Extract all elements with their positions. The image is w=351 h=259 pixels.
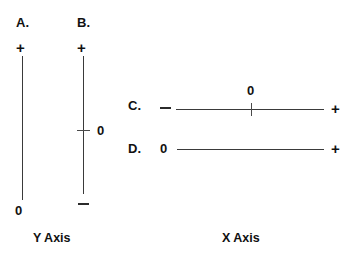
y-axis-caption: Y Axis: [33, 232, 71, 245]
panel-d-letter: D.: [128, 142, 141, 155]
panel-c-letter: C.: [128, 99, 141, 112]
panel-b-plus-marker: +: [77, 40, 86, 55]
panel-c-axis-line: [176, 109, 324, 110]
panel-a-letter: A.: [16, 16, 29, 29]
panel-d-axis-line: [177, 149, 324, 150]
panel-c-zero-label: 0: [247, 84, 254, 97]
panel-a-plus-marker: +: [16, 40, 25, 55]
panel-d-plus-marker: +: [331, 141, 340, 156]
panel-c-plus-marker: +: [331, 101, 340, 116]
panel-d-zero-label: 0: [160, 142, 167, 155]
panel-b-zero-tick: [77, 130, 90, 131]
panel-c-zero-tick: [251, 103, 252, 116]
panel-a-axis-line: [22, 56, 23, 200]
panel-b-letter: B.: [77, 16, 90, 29]
panel-a-zero-label: 0: [15, 204, 22, 217]
x-axis-caption: X Axis: [222, 232, 260, 245]
panel-b-minus-marker: [78, 203, 89, 205]
diagram-canvas: A. + 0 B. + 0 C. 0 + D. 0 + Y Axis X Axi…: [0, 0, 351, 259]
panel-b-zero-label: 0: [97, 124, 104, 137]
panel-c-minus-marker: [160, 107, 171, 109]
panel-b-axis-line: [83, 56, 84, 194]
